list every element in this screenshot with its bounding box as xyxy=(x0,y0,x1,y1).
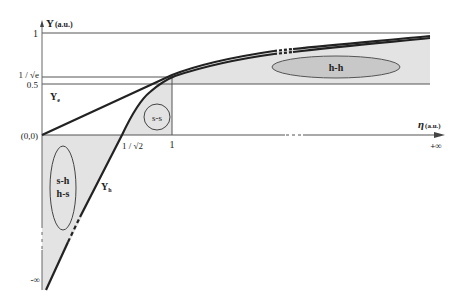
diagram: s-s s-h h-s h-h Ye Yh Y(a.u.) η(a.u.) 1 … xyxy=(0,0,459,296)
region-hh-label: h-h xyxy=(329,62,344,73)
region-ss-shade xyxy=(122,76,172,135)
y-tick-inv-sqrt-e: 1 / √e xyxy=(19,70,39,80)
y-tick-origin: (0,0) xyxy=(21,131,38,141)
y-tick-one: 1 xyxy=(33,28,38,39)
region-sh-label: s-h xyxy=(57,175,70,186)
diagram-canvas: s-s s-h h-s h-h Ye Yh Y(a.u.) η(a.u.) 1 … xyxy=(0,0,459,296)
x-axis-label: η(a.u.) xyxy=(418,118,441,130)
y-tick-half: 0.5 xyxy=(27,80,39,90)
region-ss-label: s-s xyxy=(152,113,162,123)
curve-ye-label: Ye xyxy=(50,91,60,103)
x-tick-one: 1 xyxy=(170,139,175,150)
x-tick-pos-inf: +∞ xyxy=(430,141,442,151)
region-hs-label: h-s xyxy=(57,188,70,199)
x-axis-arrow-icon xyxy=(434,132,445,138)
curve-yh-label: Yh xyxy=(101,181,112,193)
x-tick-inv-sqrt2: 1 / √2 xyxy=(122,141,143,151)
y-axis-label: Y(a.u.) xyxy=(46,17,73,29)
y-tick-neg-inf: -∞ xyxy=(31,275,40,285)
y-axis-arrow-icon xyxy=(40,20,44,27)
